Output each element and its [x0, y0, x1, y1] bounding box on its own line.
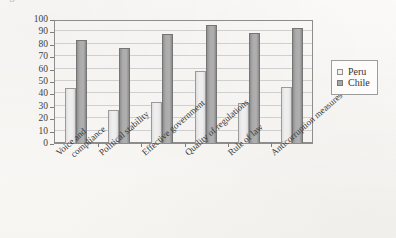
gridline [55, 55, 312, 56]
legend-label: Chile [348, 78, 370, 88]
y-axis-tick-label: 20 [14, 114, 48, 124]
y-axis-tick-label: 0 [14, 139, 48, 149]
y-axis-tick-label: 100 [14, 15, 48, 25]
cut-off-title: Figure. Governance indicators [0, 0, 300, 5]
y-axis-tick-label: 70 [14, 52, 48, 62]
gridline [55, 105, 312, 106]
x-axis-tick [98, 143, 99, 147]
legend-swatch-icon [337, 69, 343, 75]
y-axis-tick-label: 90 [14, 27, 48, 37]
legend-items: PeruChile [337, 67, 370, 89]
y-axis-tick-label: 30 [14, 102, 48, 112]
legend-label: Peru [348, 67, 366, 77]
y-axis-tick-label: 40 [14, 89, 48, 99]
y-axis-tick-label: 50 [14, 77, 48, 87]
legend: PeruChile [331, 60, 378, 95]
title-text: Figure. Governance indicators [0, 0, 300, 2]
y-axis-tick-label: 60 [14, 65, 48, 75]
legend-swatch-icon [337, 80, 343, 86]
y-axis-tick [50, 144, 54, 145]
y-axis-tick-label: 10 [14, 127, 48, 137]
gridline [55, 30, 312, 31]
gridline [55, 80, 312, 81]
y-axis-tick-label: 80 [14, 40, 48, 50]
gridline [55, 43, 312, 44]
gridline [55, 68, 312, 69]
legend-item-peru[interactable]: Peru [337, 67, 370, 77]
gridline [55, 92, 312, 93]
legend-item-chile[interactable]: Chile [337, 78, 370, 88]
